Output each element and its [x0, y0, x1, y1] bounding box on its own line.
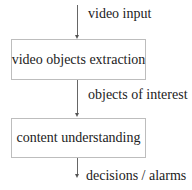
edge-label-video-input: video input [88, 6, 151, 22]
node-video-objects-extraction: video objects extraction [11, 39, 146, 80]
node-content-understanding: content understanding [11, 118, 146, 158]
edge-label-decisions-alarms: decisions / alarms [86, 168, 186, 184]
arrow-input-line [77, 5, 78, 37]
edge-label-objects-of-interest: objects of interest [88, 87, 188, 103]
arrow-objects-line [77, 80, 78, 115]
arrow-output-head-icon [75, 174, 79, 178]
arrow-objects-head-icon [75, 113, 79, 117]
